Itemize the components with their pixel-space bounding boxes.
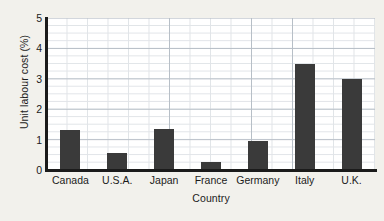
x-tick-label: Italy: [295, 173, 314, 187]
bar: [107, 153, 127, 170]
x-tick-label: Germany: [236, 173, 279, 187]
x-axis-title: Country: [47, 192, 375, 204]
bars-layer: [47, 18, 375, 170]
bar: [248, 141, 268, 170]
y-tick-label: 4: [24, 43, 42, 53]
bar: [60, 130, 80, 170]
bar: [342, 79, 362, 170]
y-axis-tick-labels: 012345: [24, 18, 42, 170]
x-tick-label: France: [195, 173, 228, 187]
y-tick-label: 3: [24, 74, 42, 84]
x-axis-tick-labels: CanadaU.S.A.JapanFranceGermanyItalyU.K.: [47, 173, 375, 189]
x-axis-line: [45, 169, 377, 172]
y-tick-label: 0: [24, 165, 42, 175]
y-tick-label: 2: [24, 104, 42, 114]
x-tick-label: Canada: [52, 173, 89, 187]
plot-area: [47, 18, 375, 170]
x-tick-label: U.S.A.: [102, 173, 132, 187]
bar-chart-figure: Unit labour cost (%) 012345 CanadaU.S.A.…: [0, 0, 384, 221]
x-tick-label: U.K.: [341, 173, 361, 187]
y-tick-label: 5: [24, 13, 42, 23]
y-tick-label: 1: [24, 135, 42, 145]
y-axis-line: [45, 17, 48, 171]
bar: [295, 64, 315, 170]
x-tick-label: Japan: [150, 173, 179, 187]
bar: [154, 129, 174, 170]
